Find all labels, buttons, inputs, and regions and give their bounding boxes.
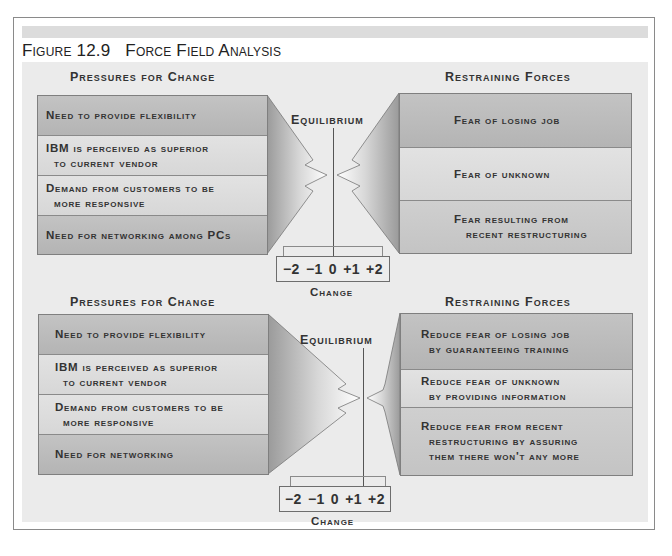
restraining-box-bottom: Reduce fear of losing job by guaranteein… bbox=[400, 313, 633, 476]
restraining-item: Reduce fear from recent restructuring by… bbox=[401, 408, 632, 475]
restraining-item: Fear of unknown bbox=[400, 148, 631, 201]
pressures-box-bottom: Need to provide flexibility IBM is perce… bbox=[38, 314, 269, 475]
pressure-item: IBM is perceived as superior to current … bbox=[39, 355, 268, 395]
equilibrium-label-top: Equilibrium bbox=[291, 113, 364, 127]
pressure-item: Demand from customers to be more respons… bbox=[38, 176, 267, 216]
pressure-item: Need to provide flexibility bbox=[38, 96, 267, 136]
pressure-item: Need for networking among PCs bbox=[38, 216, 267, 254]
pressure-item: Demand from customers to be more respons… bbox=[39, 395, 268, 435]
restraining-item: Fear resulting from recent restructuring bbox=[400, 201, 631, 253]
change-label-bottom: Change bbox=[311, 515, 354, 527]
equilibrium-line-bottom bbox=[363, 348, 364, 486]
pressure-item: IBM is perceived as superior to current … bbox=[38, 136, 267, 176]
pressures-box-top: Need to provide flexibility IBM is perce… bbox=[37, 95, 268, 255]
equilibrium-line-top bbox=[333, 128, 334, 256]
restraining-box-top: Fear of losing job Fear of unknown Fear … bbox=[399, 93, 632, 254]
pressures-header-bottom: Pressures for Change bbox=[70, 295, 215, 309]
restraining-header-top: Restraining Forces bbox=[445, 70, 571, 84]
pressure-item: Need to provide flexibility bbox=[39, 315, 268, 355]
restraining-header-bottom: Restraining Forces bbox=[445, 295, 571, 309]
pressure-item: Need for networking bbox=[39, 435, 268, 474]
restraining-item: Reduce fear of unknown by providing info… bbox=[401, 370, 632, 408]
equilibrium-label-bottom: Equilibrium bbox=[300, 333, 373, 347]
restraining-item: Fear of losing job bbox=[400, 94, 631, 148]
change-label-top: Change bbox=[310, 286, 353, 298]
restraining-item: Reduce fear of losing job by guaranteein… bbox=[401, 314, 632, 370]
change-scale-top: −2 −1 0 +1 +2 bbox=[276, 256, 390, 282]
change-scale-bottom: −2 −1 0 +1 +2 bbox=[279, 486, 391, 512]
pressures-header-top: Pressures for Change bbox=[70, 70, 215, 84]
